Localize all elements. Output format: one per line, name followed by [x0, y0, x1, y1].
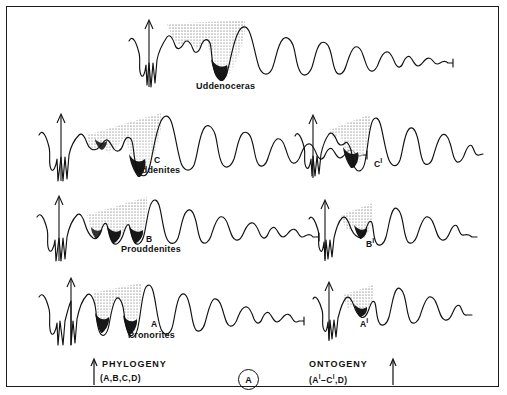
specimen-id-C: C [154, 155, 160, 165]
suture-line-B-prime [307, 197, 487, 265]
suture-line-A [37, 275, 317, 349]
specimen-id-B: B [146, 234, 152, 244]
specimen-id-D: D [219, 71, 225, 81]
specimen-id-B-prime-sup: l [372, 237, 374, 244]
specimen-genus-B: Prouddenites [121, 244, 181, 254]
figure-root: D Uddenoceras [0, 0, 507, 395]
panel-letter: A [238, 369, 259, 390]
suture-line-B [35, 193, 335, 265]
specimen-id-C-prime: Cl [374, 157, 383, 169]
suture-line-D [127, 15, 477, 93]
ontogeny-sub-mid: –C [321, 375, 333, 385]
ontogeny-sub-pre: (A [309, 375, 319, 385]
ontogeny-title: ONTOGENY [309, 359, 368, 369]
specimen-genus-D: Uddenoceras [196, 81, 255, 91]
specimen-genus-A: Pronorites [128, 330, 175, 340]
suture-line-A-prime [311, 279, 481, 345]
phylogeny-arrow-icon [89, 357, 99, 387]
suture-line-C-prime [293, 110, 483, 182]
phylogeny-title: PHYLOGENY [102, 359, 167, 369]
ontogeny-sub-post: ,D) [335, 375, 348, 385]
specimen-id-A-prime-sup: l [366, 317, 368, 324]
specimen-id-A: A [151, 319, 157, 329]
figure-border: D Uddenoceras [6, 6, 499, 387]
specimen-id-A-prime: Al [360, 317, 369, 329]
specimen-genus-C: Uddenites [135, 165, 180, 175]
ontogeny-arrow-icon [388, 357, 398, 387]
specimen-id-B-prime: Bl [366, 237, 375, 249]
shaded-lobe-D [167, 20, 245, 81]
phylogeny-subtitle: (A,B,C,D) [100, 373, 141, 383]
specimen-id-C-prime-sup: l [380, 157, 382, 164]
ontogeny-subtitle: (Al–Cl,D) [309, 373, 347, 385]
